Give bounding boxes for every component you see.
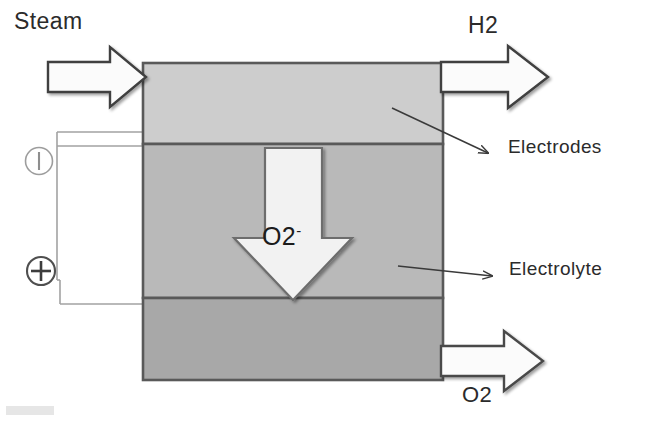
- steam-inlet-arrow: [48, 47, 146, 107]
- electrodes-callout-label: Electrodes: [508, 136, 602, 158]
- soec-diagram: Steam H2 O2 Electrodes Electrolyte O2-: [0, 0, 662, 421]
- oxygen-ion-label: O2-: [262, 222, 302, 251]
- layer-top-electrode: [143, 63, 443, 144]
- electrolyte-callout-label: Electrolyte: [509, 258, 602, 280]
- layer-bottom-electrode: [143, 298, 443, 380]
- oxygen-ion-species: O2: [262, 222, 296, 250]
- steam-inlet-label: Steam: [14, 8, 82, 35]
- diagram-canvas: [0, 0, 662, 421]
- positive-terminal-icon: [27, 257, 55, 285]
- negative-terminal-icon: [26, 148, 53, 175]
- oxygen-ion-charge: -: [296, 222, 301, 239]
- o2-outlet-label: O2: [462, 382, 492, 408]
- page-edge-artifact: [6, 406, 54, 415]
- h2-outlet-arrow: [441, 46, 548, 108]
- external-circuit: [57, 132, 143, 304]
- h2-outlet-label: H2: [468, 12, 498, 39]
